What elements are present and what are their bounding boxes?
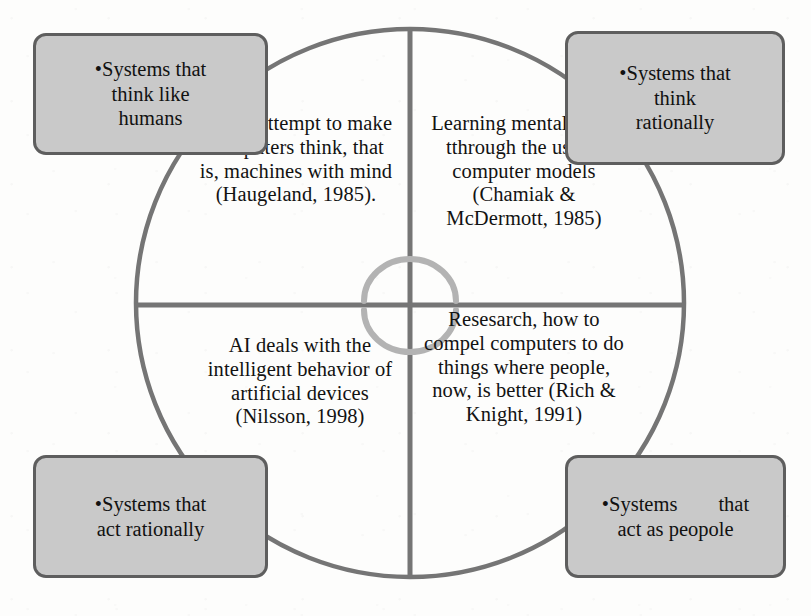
bullet-icon: •: [95, 58, 102, 80]
callout-act-as-people-text: •Systems that act as peopole: [568, 492, 783, 541]
callout-line-1: Systems that: [102, 58, 206, 80]
callout-line-1: Systems that: [102, 493, 206, 515]
callout-think-rationally[interactable]: •Systems that think rationally: [565, 31, 785, 165]
quadrant-text-act-rationally: AI deals with the intelligent behavior o…: [200, 334, 400, 429]
callout-act-rationally-text: •Systems that act rationally: [36, 492, 265, 541]
callout-line-2: act rationally: [44, 517, 257, 542]
callout-act-as-people[interactable]: •Systems that act as peopole: [565, 455, 786, 578]
callout-think-rationally-text: •Systems that think rationally: [568, 61, 782, 135]
callout-line-2: think: [576, 86, 774, 111]
callout-think-like-humans-text: •Systems that think like humans: [36, 57, 265, 131]
callout-line-1: Systems that: [626, 62, 730, 84]
bullet-icon: •: [602, 493, 609, 515]
callout-line-3: rationally: [576, 110, 774, 135]
callout-think-like-humans[interactable]: •Systems that think like humans: [33, 33, 268, 155]
callout-line-3: humans: [58, 106, 257, 131]
callout-line-1: Systems that: [609, 493, 749, 515]
quadrant-text-act-as-people: Resesarch, how to compel computers to do…: [424, 308, 624, 427]
callout-line-2: think like: [58, 82, 257, 107]
bullet-icon: •: [95, 493, 102, 515]
callout-act-rationally[interactable]: •Systems that act rationally: [33, 455, 268, 578]
diagram-canvas: A new attempt to make computers think, t…: [0, 0, 811, 616]
callout-line-2: act as peopole: [576, 517, 775, 542]
